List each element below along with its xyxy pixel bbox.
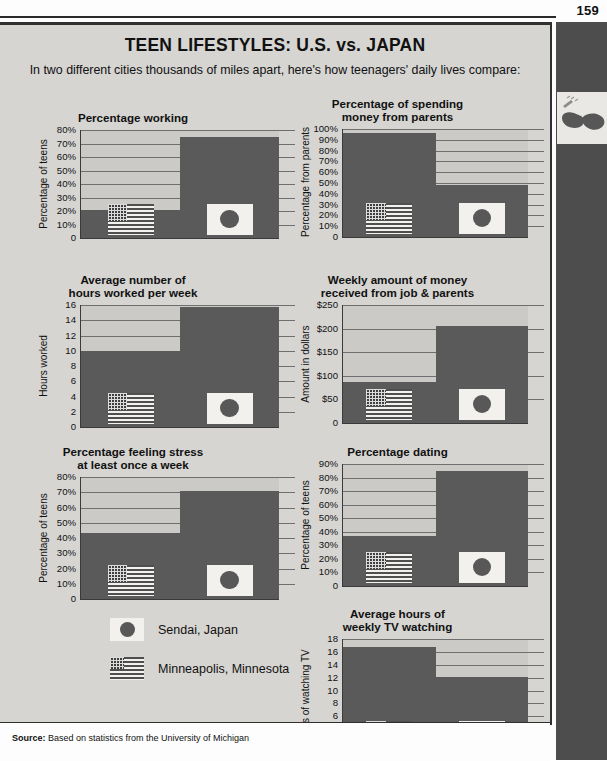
japan-flag-icon <box>459 552 505 583</box>
y-tick-label: 20% <box>319 211 338 221</box>
y-tick-label: 60% <box>319 167 338 177</box>
y-tick-label: 30% <box>57 548 76 558</box>
us-flag-icon <box>108 204 154 235</box>
y-tick-label: 40% <box>57 533 76 543</box>
us-flag-icon <box>108 393 154 424</box>
us-flag-icon <box>108 565 154 596</box>
us-flag-icon <box>110 657 144 680</box>
y-tick-label: 70% <box>57 139 76 149</box>
plot-area <box>80 477 279 600</box>
chart-legend: Sendai, Japan Minneapolis, Minnesota <box>110 610 370 690</box>
y-tick-label: 40% <box>319 527 338 537</box>
source-label: Source: <box>12 733 46 743</box>
y-tick-label: 60% <box>57 503 76 513</box>
y-tick-label: 70% <box>57 487 76 497</box>
y-tick-label: 50% <box>319 513 338 523</box>
source-text: Based on statistics from the University … <box>48 733 249 743</box>
y-tick-label: 0 <box>71 422 76 432</box>
y-tick-label: 80% <box>57 125 76 135</box>
source-note: Source: Based on statistics from the Uni… <box>12 733 249 743</box>
gridline <box>343 129 544 130</box>
page-title: TEEN LIFESTYLES: U.S. vs. JAPAN <box>0 35 550 56</box>
y-tick-label: 0 <box>71 594 76 604</box>
y-tick-label: 0 <box>333 418 338 428</box>
y-tick-label: 30% <box>319 541 338 551</box>
y-tick-label: 10% <box>319 221 338 231</box>
chart-title: Average number ofhours worked per week <box>28 273 238 299</box>
y-tick-label: $200 <box>317 324 338 334</box>
y-tick-label: 8 <box>71 361 76 371</box>
plot-area <box>342 129 528 238</box>
y-tick-label: 60% <box>57 152 76 162</box>
japan-flag-icon <box>459 203 505 234</box>
y-tick-label: 80% <box>319 473 338 483</box>
gridline <box>81 130 295 131</box>
chart-title: Percentage dating <box>290 445 505 458</box>
sunglasses-icon <box>557 92 607 144</box>
y-tick-label: $100 <box>317 371 338 381</box>
y-tick-label: 40% <box>319 189 338 199</box>
y-tick-label: 40% <box>57 179 76 189</box>
japan-flag-icon <box>207 204 253 235</box>
y-tick-label: $250 <box>317 300 338 310</box>
y-tick-label: 70% <box>319 486 338 496</box>
gridline <box>343 464 544 465</box>
y-tick-label: 70% <box>319 157 338 167</box>
us-flag-icon <box>366 552 412 583</box>
y-tick-label: $150 <box>317 347 338 357</box>
plot-area <box>80 305 279 428</box>
y-tick-label: 20% <box>57 206 76 216</box>
y-tick-label: 10% <box>57 220 76 230</box>
plot-area <box>342 305 528 424</box>
legend-item-japan: Sendai, Japan <box>110 618 238 641</box>
page-subtitle: In two different cities thousands of mil… <box>0 63 550 77</box>
chart-title: Weekly amount of moneyreceived from job … <box>290 273 505 299</box>
y-tick-label: 90% <box>319 135 338 145</box>
y-tick-label: 10% <box>57 579 76 589</box>
y-tick-label: 6 <box>71 376 76 386</box>
legend-label-japan: Sendai, Japan <box>158 623 238 637</box>
y-tick-label: 90% <box>319 459 338 469</box>
y-tick-label: 0 <box>333 232 338 242</box>
y-tick-label: 100% <box>313 124 338 134</box>
y-tick-label: 8 <box>333 699 338 709</box>
content-panel: TEEN LIFESTYLES: U.S. vs. JAPAN In two d… <box>0 22 552 725</box>
y-tick-label: 50% <box>57 518 76 528</box>
chart-title: Percentage feeling stressat least once a… <box>28 445 238 471</box>
y-tick-label: $50 <box>322 395 338 405</box>
page-number: 159 <box>576 3 599 18</box>
y-axis-ticks: 010%20%30%40%50%60%70%80% <box>28 130 76 238</box>
y-tick-label: 0 <box>333 581 338 591</box>
gridline <box>81 305 295 306</box>
japan-flag-icon <box>207 565 253 596</box>
y-tick-label: 2 <box>71 407 76 417</box>
japan-flag-icon <box>207 393 253 424</box>
gridline <box>81 477 295 478</box>
plot-area <box>342 464 528 587</box>
legend-item-us: Minneapolis, Minnesota <box>110 657 289 680</box>
gridline <box>343 639 544 640</box>
y-tick-label: 20% <box>319 554 338 564</box>
y-axis-ticks: 010%20%30%40%50%60%70%80% <box>28 477 76 599</box>
y-tick-label: 12 <box>65 331 76 341</box>
y-tick-label: 20% <box>57 564 76 574</box>
y-tick-label: 16 <box>65 300 76 310</box>
y-axis-ticks: 0246810121416 <box>28 305 76 427</box>
chart-title: Percentage working <box>28 111 238 124</box>
y-tick-label: 30% <box>319 200 338 210</box>
y-tick-label: 50% <box>57 166 76 176</box>
chart-title: Percentage of spendingmoney from parents <box>290 97 505 123</box>
gridline <box>343 305 544 306</box>
y-axis-ticks: 010%20%30%40%50%60%70%80%90%100% <box>290 129 338 237</box>
y-tick-label: 80% <box>319 146 338 156</box>
header-rule <box>0 16 556 18</box>
japan-flag-icon <box>110 618 144 641</box>
legend-label-us: Minneapolis, Minnesota <box>158 662 289 676</box>
y-tick-label: 0 <box>71 233 76 243</box>
y-tick-label: 80% <box>57 472 76 482</box>
footer: Source: Based on statistics from the Uni… <box>0 722 550 761</box>
us-flag-icon <box>366 389 412 420</box>
y-tick-label: 30% <box>57 193 76 203</box>
japan-flag-icon <box>459 389 505 420</box>
